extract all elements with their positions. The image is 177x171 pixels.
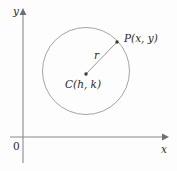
center-point-dot: [84, 72, 87, 75]
point-p-dot: [115, 40, 118, 43]
y-axis-arrowhead: [20, 8, 27, 15]
origin-label: 0: [13, 141, 20, 152]
x-axis-arrowhead: [162, 134, 169, 141]
x-axis-label: x: [161, 144, 167, 155]
radius-label: r: [94, 50, 99, 61]
y-axis-label: y: [13, 6, 19, 17]
point-p-label: P(x, y): [124, 33, 158, 44]
radius-segment: [86, 42, 117, 74]
center-point-label: C(h, k): [65, 79, 101, 90]
circle-diagram-figure: y x 0 P(x, y) C(h, k) r: [0, 0, 177, 171]
